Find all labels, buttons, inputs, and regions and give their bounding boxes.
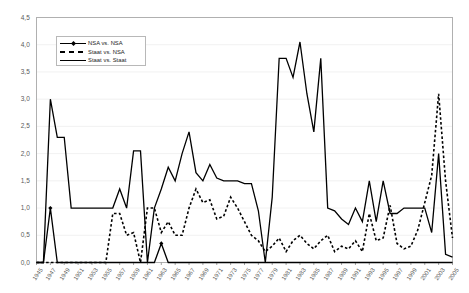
series-line-2: [37, 42, 453, 263]
y-axis-tick-label: 2,5: [4, 122, 30, 129]
y-axis-tick-label: 0,0: [4, 259, 30, 266]
legend-key-solid-marker-icon: [60, 39, 86, 47]
y-axis-tick-label: 1,0: [4, 204, 30, 211]
y-axis-tick-label: 1,5: [4, 177, 30, 184]
legend-label: Staat vs. NSA: [88, 49, 125, 55]
data-series-layer: [37, 42, 453, 263]
y-axis-tick-label: 2,0: [4, 150, 30, 157]
legend-label: NSA vs. NSA: [88, 40, 123, 46]
y-axis-tick-label: 3,5: [4, 68, 30, 75]
legend-item-staat-vs-staat: Staat vs. Staat: [60, 56, 142, 65]
legend-key-solid-icon: [60, 56, 86, 64]
legend-label: Staat vs. Staat: [88, 57, 126, 63]
legend-key-dashed-icon: [60, 48, 86, 56]
y-axis-tick-label: 4,5: [4, 14, 30, 21]
chart-legend: NSA vs. NSA Staat vs. NSA Staat vs. Staa…: [56, 36, 146, 66]
series-marker: [159, 241, 163, 245]
y-axis-tick-label: 3,0: [4, 95, 30, 102]
y-axis-tick-label: 4,0: [4, 41, 30, 48]
series-line-1: [37, 94, 453, 263]
legend-item-nsa-vs-nsa: NSA vs. NSA: [60, 39, 142, 48]
line-chart: 0,00,51,01,52,02,53,03,54,04,5 194519471…: [0, 0, 469, 293]
series-marker: [48, 206, 52, 210]
y-axis-tick-label: 0,5: [4, 231, 30, 238]
legend-item-staat-vs-nsa: Staat vs. NSA: [60, 48, 142, 57]
